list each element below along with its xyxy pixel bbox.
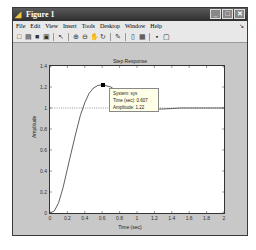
datatip-marker[interactable] — [101, 83, 105, 87]
datatip-time: Time (sec): 0.607 — [113, 97, 155, 104]
x-tick-label: 1.2 — [147, 215, 161, 221]
hide-plot-tools-icon[interactable]: ▪ — [153, 33, 161, 41]
data-cursor-icon[interactable]: ✎ — [114, 33, 122, 41]
show-plot-tools-icon[interactable]: ▢ — [162, 33, 170, 41]
x-tick-label: 0.8 — [113, 215, 127, 221]
new-figure-icon[interactable]: □ — [15, 33, 23, 41]
maximize-button[interactable]: □ — [222, 9, 233, 19]
x-axis-label: Time (sec) — [13, 224, 247, 230]
x-tick-label: 1 — [130, 215, 144, 221]
menu-bar: File Edit View Insert Tools Desktop Wind… — [13, 21, 247, 31]
menu-edit[interactable]: Edit — [30, 21, 40, 31]
datatip-system: System: sys — [113, 90, 155, 97]
y-tick-label: 1.4 — [33, 63, 47, 69]
y-axis-label: Amplitude — [31, 116, 37, 138]
y-tick-label: 1 — [33, 105, 47, 111]
window-title: Figure 1 — [26, 8, 55, 21]
matlab-figure-icon: ◢ — [15, 10, 24, 19]
save-icon[interactable]: ■ — [33, 33, 41, 41]
toolbar-separator — [68, 33, 69, 41]
x-tick-label: 0.2 — [60, 215, 74, 221]
zoom-in-icon[interactable]: ⊕ — [72, 33, 80, 41]
figure-window: ◢ Figure 1 _ □ ✕ File Edit View Insert T… — [12, 7, 248, 236]
menu-file[interactable]: File — [16, 21, 25, 31]
y-tick-label: 0.6 — [33, 147, 47, 153]
colorbar-icon[interactable]: ▯ — [129, 33, 137, 41]
menu-desktop[interactable]: Desktop — [100, 21, 120, 31]
menu-window[interactable]: Window — [125, 21, 145, 31]
toolbar-separator — [53, 33, 54, 41]
x-tick-label: 2 — [217, 215, 231, 221]
figure-toolbar: □ ▤ ■ ▣ ↖ ⊕ ⊖ ✋ ↻ ✎ ▯ ▦ ▪ ▢ — [13, 31, 247, 43]
x-tick-label: 1.6 — [182, 215, 196, 221]
y-tick-label: 1.2 — [33, 84, 47, 90]
toolbar-separator — [110, 33, 111, 41]
datatip-amplitude: Amplitude: 1.22 — [113, 104, 155, 111]
datatip-box[interactable]: System: sys Time (sec): 0.607 Amplitude:… — [109, 88, 159, 112]
y-tick-label: 0.4 — [33, 168, 47, 174]
toolbar-separator — [125, 33, 126, 41]
menu-help[interactable]: Help — [150, 21, 162, 31]
edit-plot-icon[interactable]: ↖ — [57, 33, 65, 41]
minimize-button[interactable]: _ — [210, 9, 221, 19]
print-icon[interactable]: ▣ — [42, 33, 50, 41]
zoom-out-icon[interactable]: ⊖ — [81, 33, 89, 41]
x-tick-label: 0.4 — [78, 215, 92, 221]
chart-title: Step Response — [13, 58, 247, 64]
toolbar-separator — [149, 33, 150, 41]
legend-icon[interactable]: ▦ — [138, 33, 146, 41]
x-tick-label: 0.6 — [95, 215, 109, 221]
open-file-icon[interactable]: ▤ — [24, 33, 32, 41]
x-tick-label: 0 — [43, 215, 57, 221]
x-tick-label: 1.4 — [165, 215, 179, 221]
y-tick-label: 0.2 — [33, 189, 47, 195]
menu-tools[interactable]: Tools — [82, 21, 95, 31]
menu-view[interactable]: View — [45, 21, 58, 31]
pan-icon[interactable]: ✋ — [90, 33, 98, 41]
rotate-icon[interactable]: ↻ — [99, 33, 107, 41]
close-button[interactable]: ✕ — [234, 9, 245, 19]
menu-insert[interactable]: Insert — [63, 21, 77, 31]
x-tick-label: 1.8 — [200, 215, 214, 221]
dock-arrow-icon[interactable]: ↘ — [239, 21, 244, 31]
title-bar[interactable]: ◢ Figure 1 _ □ ✕ — [13, 8, 247, 21]
